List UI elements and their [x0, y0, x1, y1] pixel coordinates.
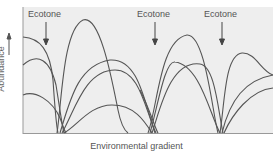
y-axis-label: Abundance	[0, 46, 6, 92]
ecotone-label-1: Ecotone	[28, 9, 61, 19]
arrow-up-icon	[7, 33, 11, 39]
ecotone-diagram	[0, 0, 273, 151]
ecotone-label-3: Ecotone	[204, 9, 237, 19]
y-axis-arrow	[7, 33, 11, 55]
ecotone-label-2: Ecotone	[137, 9, 170, 19]
x-axis-label: Environmental gradient	[0, 141, 273, 151]
